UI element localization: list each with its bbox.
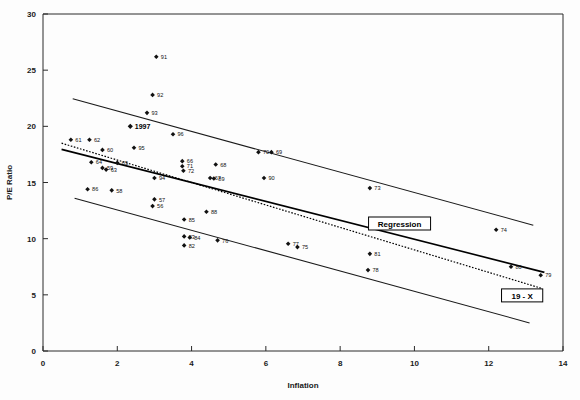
data-point-label-56: 56 (157, 203, 163, 209)
trend-line-19-minus-x (62, 143, 541, 288)
data-point-label-70: 70 (263, 149, 269, 155)
data-point-marker-68 (213, 162, 218, 167)
x-tick-label: 0 (41, 359, 46, 368)
data-point-label-79: 79 (545, 272, 551, 278)
data-point-label-72: 72 (188, 168, 194, 174)
data-point-marker-72 (181, 168, 186, 173)
data-point-label-85: 85 (189, 217, 195, 223)
data-point-label-58: 58 (116, 188, 122, 194)
data-point-marker-82 (182, 243, 187, 248)
y-axis-title: P/E Ratio (5, 165, 14, 200)
data-point-label-69: 69 (276, 149, 282, 155)
data-point-label-90: 90 (269, 175, 275, 181)
data-point-marker-80 (509, 264, 514, 269)
data-point-marker-83 (182, 234, 187, 239)
data-point-marker-74 (494, 227, 499, 232)
y-tick-label: 15 (27, 179, 36, 188)
data-point-label-82: 82 (189, 243, 195, 249)
data-point-label-65: 65 (122, 160, 128, 166)
data-point-label-95: 95 (139, 145, 145, 151)
data-point-marker-66 (180, 159, 185, 164)
x-tick-label: 6 (264, 359, 269, 368)
data-point-marker-61 (69, 138, 74, 143)
x-tick-label: 10 (410, 359, 419, 368)
data-point-marker-91 (154, 54, 159, 59)
data-point-label-1997: 1997 (135, 123, 151, 130)
y-tick-label: 0 (32, 347, 37, 356)
data-point-label-61: 61 (75, 137, 81, 143)
y-tick-label: 25 (27, 66, 36, 75)
y-tick-label: 30 (27, 10, 36, 19)
data-point-marker-94 (152, 176, 157, 181)
trend-line-upper-band (73, 99, 534, 225)
chart-annotations: Regression19 - X (369, 217, 543, 302)
trend-lines (62, 99, 545, 323)
data-point-marker-56 (150, 204, 155, 209)
data-point-marker-77 (286, 241, 291, 246)
data-points: 9192931997966162956070696465666871596372… (69, 54, 552, 278)
data-point-marker-57 (152, 197, 157, 202)
data-point-label-91: 91 (161, 54, 167, 60)
trend-line-lower-band (75, 198, 530, 323)
data-point-label-60: 60 (107, 147, 113, 153)
annotation-regression-label: Regression (378, 220, 422, 229)
data-point-label-96: 96 (178, 131, 184, 137)
data-point-marker-62 (87, 138, 92, 143)
annotation-identity-label: 19 - X (511, 292, 533, 301)
plot-frame (43, 14, 563, 351)
data-point-label-80: 80 (516, 264, 522, 270)
data-point-label-64: 64 (96, 159, 102, 165)
data-point-label-57: 57 (159, 197, 165, 203)
data-point-label-86: 86 (92, 186, 98, 192)
x-tick-label: 2 (115, 359, 120, 368)
data-point-label-81: 81 (374, 251, 380, 257)
data-point-label-63: 63 (111, 167, 117, 173)
data-point-label-93: 93 (152, 110, 158, 116)
data-point-label-94: 94 (159, 175, 165, 181)
data-point-marker-73 (368, 186, 373, 191)
data-point-marker-96 (171, 132, 176, 137)
trend-line-regression (62, 149, 545, 272)
data-point-label-68: 68 (220, 162, 226, 168)
data-point-marker-64 (89, 160, 94, 165)
data-point-label-74: 74 (501, 227, 507, 233)
x-tick-label: 4 (189, 359, 194, 368)
data-point-marker-88 (204, 209, 209, 214)
x-tick-label: 14 (559, 359, 568, 368)
data-point-label-88: 88 (211, 209, 217, 215)
data-point-label-92: 92 (157, 92, 163, 98)
data-point-marker-71 (180, 164, 185, 169)
data-point-label-76: 76 (222, 238, 228, 244)
data-point-marker-90 (262, 176, 267, 181)
x-axis-ticks: 02468101214 (41, 346, 568, 368)
data-point-marker-79 (538, 273, 543, 278)
scatter-plot: 02468101214 051015202530 919293199796616… (0, 0, 580, 400)
data-point-marker-93 (145, 111, 150, 116)
data-point-marker-85 (182, 217, 187, 222)
data-point-marker-92 (150, 93, 155, 98)
data-point-label-78: 78 (373, 267, 379, 273)
data-point-marker-58 (109, 188, 114, 193)
x-axis-title: Inflation (287, 381, 318, 390)
x-tick-label: 12 (484, 359, 493, 368)
data-point-label-75: 75 (302, 244, 308, 250)
x-tick-label: 8 (338, 359, 343, 368)
data-point-marker-81 (368, 252, 373, 257)
data-point-label-73: 73 (374, 185, 380, 191)
data-point-label-89: 89 (218, 176, 224, 182)
chart-container: 02468101214 051015202530 919293199796616… (0, 0, 580, 400)
data-point-marker-60 (100, 148, 105, 153)
data-point-marker-86 (85, 187, 90, 192)
data-point-label-84: 84 (194, 235, 200, 241)
y-tick-label: 20 (27, 122, 36, 131)
data-point-label-62: 62 (94, 137, 100, 143)
data-point-marker-67 (208, 176, 213, 181)
data-point-marker-76 (215, 238, 220, 243)
data-point-marker-78 (366, 268, 371, 273)
y-tick-label: 5 (32, 291, 37, 300)
data-point-marker-95 (132, 145, 137, 150)
y-axis-ticks: 051015202530 (27, 10, 48, 356)
y-tick-label: 10 (27, 235, 36, 244)
data-point-marker-1997 (128, 124, 133, 129)
